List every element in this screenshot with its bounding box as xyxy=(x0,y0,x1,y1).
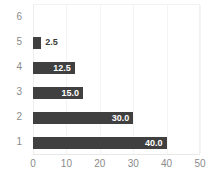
bar-value-label: 15.0 xyxy=(62,89,80,98)
x-tick-label-0: 0 xyxy=(30,159,36,169)
y-tick-label-3: 3 xyxy=(0,83,22,101)
bar-value-label: 30.0 xyxy=(112,114,130,123)
bar-category-1[interactable]: 40.0 xyxy=(33,137,167,149)
plot-area: 2.512.515.030.040.0 xyxy=(33,4,200,155)
y-tick-label-1: 1 xyxy=(0,133,22,151)
bar-row: 40.0 xyxy=(33,134,199,152)
x-tick-label-40: 40 xyxy=(161,159,172,169)
bar-row: 15.0 xyxy=(33,84,199,102)
bar-rows: 2.512.515.030.040.0 xyxy=(33,5,199,154)
bar-category-5[interactable] xyxy=(33,37,41,49)
bar-category-4[interactable]: 12.5 xyxy=(33,62,75,74)
y-axis: 654321 xyxy=(0,4,28,155)
x-axis: 01020304050 xyxy=(0,157,218,175)
bar-value-label: 40.0 xyxy=(145,139,163,148)
bar-row xyxy=(33,9,199,27)
bar-row: 2.5 xyxy=(33,34,199,52)
x-tick-label-20: 20 xyxy=(94,159,105,169)
bar-row: 12.5 xyxy=(33,59,199,77)
bar-category-2[interactable]: 30.0 xyxy=(33,112,133,124)
y-tick-label-2: 2 xyxy=(0,108,22,126)
x-tick-label-10: 10 xyxy=(61,159,72,169)
bar-category-3[interactable]: 15.0 xyxy=(33,87,83,99)
y-tick-label-5: 5 xyxy=(0,33,22,51)
x-tick-label-30: 30 xyxy=(128,159,139,169)
bar-chart: 2.512.515.030.040.0 654321 01020304050 xyxy=(0,0,218,177)
x-tick-label-50: 50 xyxy=(194,159,205,169)
bar-value-label: 2.5 xyxy=(45,38,58,47)
bar-value-label: 12.5 xyxy=(53,63,71,72)
y-tick-label-4: 4 xyxy=(0,58,22,76)
bar-row: 30.0 xyxy=(33,109,199,127)
gridline-x-50 xyxy=(200,5,201,154)
y-tick-label-6: 6 xyxy=(0,8,22,26)
